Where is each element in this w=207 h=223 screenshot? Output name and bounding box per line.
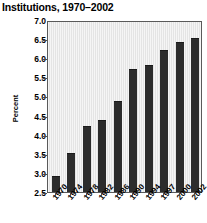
- x-axis-tick-mark: [117, 193, 118, 196]
- chart-figure: Institutions, 1970–2002 Percent 7.06.56.…: [0, 0, 207, 223]
- bar: [98, 120, 106, 192]
- plot-area: [47, 21, 202, 193]
- bar: [129, 69, 137, 192]
- bar: [114, 101, 122, 192]
- x-axis-tick-mark: [163, 193, 164, 196]
- x-axis-tick-mark: [179, 193, 180, 196]
- chart-title: Institutions, 1970–2002: [2, 1, 114, 13]
- y-axis-title: Percent: [11, 69, 20, 149]
- bar: [145, 65, 153, 192]
- bar: [191, 38, 199, 192]
- y-axis-tick-label: 7.0: [34, 16, 46, 26]
- x-axis-tick-mark: [70, 193, 71, 196]
- bar: [83, 126, 91, 192]
- y-axis-tick-mark: [43, 193, 47, 194]
- x-axis-tick-mark: [194, 193, 195, 196]
- x-axis-tick-mark: [55, 193, 56, 196]
- x-axis-tick-mark: [132, 193, 133, 196]
- bar: [176, 42, 184, 192]
- y-axis-title-container: Percent: [3, 70, 15, 150]
- x-axis-tick-mark: [86, 193, 87, 196]
- x-axis-tick-mark: [101, 193, 102, 196]
- x-axis-tick-mark: [148, 193, 149, 196]
- bar: [160, 50, 168, 192]
